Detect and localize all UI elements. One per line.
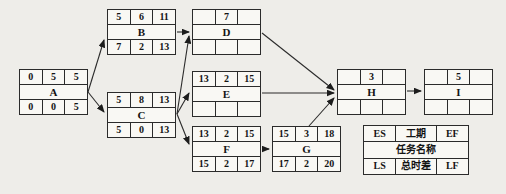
node-I-es: [425, 70, 447, 84]
edge-A-B: [88, 40, 104, 92]
node-I-tf: [448, 100, 470, 114]
edge-C-E: [177, 93, 189, 114]
node-F-es: 13: [193, 127, 215, 141]
node-A-tf: 0: [43, 100, 65, 114]
node-E-es: 13: [193, 72, 215, 86]
node-G-ef: 18: [318, 127, 340, 141]
node-I-name: I: [425, 85, 492, 99]
node-C-tf: 0: [131, 123, 153, 137]
node-G-dur: 3: [296, 127, 318, 141]
node-F-name: F: [193, 142, 260, 156]
node-E-ef: 15: [238, 72, 260, 86]
node-B-ef: 11: [153, 10, 175, 24]
node-A-ls: 0: [20, 100, 42, 114]
node-I-lf: [470, 100, 492, 114]
network-diagram: 0 5 5 A 0 0 5 5 6 11 B 7 2 13 5 8 13 C: [0, 0, 506, 194]
node-A-es: 0: [20, 70, 42, 84]
node-G: 15 3 18 G 17 2 20: [272, 126, 341, 172]
node-B: 5 6 11 B 7 2 13: [107, 9, 176, 55]
node-A: 0 5 5 A 0 0 5: [19, 69, 88, 115]
legend-name-label: 任务名称: [364, 142, 468, 157]
node-B-name: B: [108, 25, 175, 39]
node-C-dur: 8: [131, 93, 153, 107]
node-G-lf: 20: [318, 157, 340, 171]
node-F-dur: 2: [216, 127, 238, 141]
node-C-name: C: [108, 108, 175, 122]
node-C: 5 8 13 C 5 0 13: [107, 92, 176, 138]
node-B-lf: 13: [153, 40, 175, 54]
node-B-dur: 6: [131, 10, 153, 24]
node-G-ls: 17: [273, 157, 295, 171]
node-E-dur: 2: [216, 72, 238, 86]
node-A-lf: 5: [65, 100, 87, 114]
node-E-tf: [216, 102, 238, 116]
node-H-name: H: [338, 85, 405, 99]
node-F: 13 2 15 F 15 2 17: [192, 126, 261, 172]
node-H-tf: [361, 100, 383, 114]
node-D-ls: [193, 40, 215, 54]
node-B-tf: 2: [131, 40, 153, 54]
node-A-ef: 5: [65, 70, 87, 84]
node-A-name: A: [20, 85, 87, 99]
node-D-name: D: [193, 25, 260, 39]
node-A-dur: 5: [43, 70, 65, 84]
node-E-ls: [193, 102, 215, 116]
node-D-tf: [216, 40, 238, 54]
node-I-ls: [425, 100, 447, 114]
node-D-ef: [238, 10, 260, 24]
node-I-dur: 5: [448, 70, 470, 84]
node-C-es: 5: [108, 93, 130, 107]
legend-dur-label: 工期: [396, 126, 435, 141]
node-I-ef: [470, 70, 492, 84]
node-H: 3 H: [337, 69, 406, 115]
legend-es-label: ES: [364, 126, 395, 141]
node-H-lf: [383, 100, 405, 114]
edge-C-D: [177, 36, 189, 114]
node-F-ls: 15: [193, 157, 215, 171]
legend-ls-label: LS: [364, 159, 395, 174]
node-H-dur: 3: [361, 70, 383, 84]
legend-tf-label: 总时差: [396, 159, 435, 174]
edge-C-F: [177, 114, 189, 144]
node-B-es: 5: [108, 10, 130, 24]
edge-G-H: [309, 98, 334, 126]
node-D-dur: 7: [216, 10, 238, 24]
node-F-tf: 2: [216, 157, 238, 171]
legend-ef-label: EF: [437, 126, 468, 141]
node-E-lf: [238, 102, 260, 116]
node-D-lf: [238, 40, 260, 54]
node-B-ls: 7: [108, 40, 130, 54]
node-G-name: G: [273, 142, 340, 156]
legend-lf-label: LF: [437, 159, 468, 174]
node-C-ls: 5: [108, 123, 130, 137]
node-G-es: 15: [273, 127, 295, 141]
node-H-es: [338, 70, 360, 84]
node-E-name: E: [193, 87, 260, 101]
edge-A-C: [88, 92, 104, 112]
node-G-tf: 2: [296, 157, 318, 171]
node-E: 13 2 15 E: [192, 71, 261, 117]
node-H-ef: [383, 70, 405, 84]
node-D-es: [193, 10, 215, 24]
node-F-lf: 17: [238, 157, 260, 171]
edge-D-H: [262, 33, 334, 90]
node-D: 7 D: [192, 9, 261, 55]
node-C-lf: 13: [153, 123, 175, 137]
node-F-ef: 15: [238, 127, 260, 141]
node-H-ls: [338, 100, 360, 114]
node-I: 5 I: [424, 69, 493, 115]
legend-box: ES 工期 EF 任务名称 LS 总时差 LF: [363, 125, 469, 175]
node-C-ef: 13: [153, 93, 175, 107]
